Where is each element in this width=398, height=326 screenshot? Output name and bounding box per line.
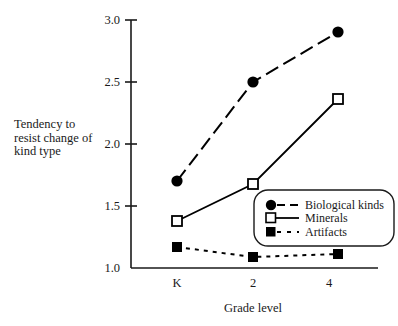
x-tick-label-2: 2 <box>250 276 256 290</box>
legend-marker-open-square-icon <box>266 213 276 223</box>
series-minerals-point-k <box>172 216 182 226</box>
y-axis-tick-labels: 3.0 2.5 2.0 1.5 1.0 <box>104 13 120 275</box>
series-biological-kinds-point-2 <box>247 76 258 87</box>
x-axis-title: Grade level <box>224 301 282 315</box>
series-artifacts-point-2 <box>248 252 258 262</box>
legend-marker-filled-square-icon <box>266 227 276 237</box>
y-tick-label-2-5: 2.5 <box>104 75 120 89</box>
legend: Biological kinds Minerals Artifacts <box>254 190 394 246</box>
series-biological-kinds-point-4 <box>332 26 343 37</box>
y-tick-label-3-0: 3.0 <box>104 13 120 27</box>
legend-marker-filled-circle-icon <box>266 200 276 210</box>
x-tick-label-k: K <box>172 276 181 290</box>
series-biological-kinds <box>171 26 343 186</box>
series-biological-kinds-line <box>177 32 338 181</box>
series-minerals-point-2 <box>248 179 258 189</box>
series-artifacts-point-k <box>172 242 182 252</box>
series-artifacts-point-4 <box>333 249 343 259</box>
y-tick-label-2-0: 2.0 <box>104 137 120 151</box>
y-tick-label-1-5: 1.5 <box>104 199 120 213</box>
x-tick-label-4: 4 <box>326 276 333 290</box>
x-axis-tick-labels: K 2 4 <box>172 276 332 290</box>
legend-label-minerals: Minerals <box>305 211 348 225</box>
legend-label-artifacts: Artifacts <box>305 225 347 239</box>
y-tick-label-1-0: 1.0 <box>104 261 120 275</box>
figure-container: Tendency to resist change of kind type 3… <box>0 0 398 326</box>
legend-label-biological-kinds: Biological kinds <box>305 198 384 212</box>
line-chart: 3.0 2.5 2.0 1.5 1.0 K 2 4 Grade level <box>0 0 398 326</box>
series-minerals-point-4 <box>333 94 343 104</box>
series-biological-kinds-point-k <box>171 175 182 186</box>
